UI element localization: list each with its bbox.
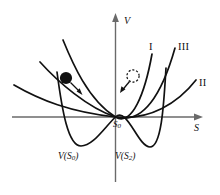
diagram-canvas: [0, 0, 220, 195]
curve-ii-path: [14, 80, 196, 117]
filled-particle-ball: [60, 72, 72, 84]
origin-label-sub: 0: [118, 122, 122, 130]
right-well-label: V(S2): [115, 152, 135, 162]
curve-iii-path: [40, 48, 175, 118]
x-axis-label: S: [194, 123, 199, 133]
left-well-label-base: V(S: [58, 151, 72, 161]
y-axis-label: V: [124, 16, 130, 26]
curve-i-label: I: [149, 42, 153, 53]
right-well-label-close: ): [132, 151, 135, 161]
potential-energy-diagram: V S S0 I III II V(S0) V(S2): [0, 0, 220, 195]
double-well-path: [57, 68, 166, 147]
left-well-label-close: ): [75, 151, 78, 161]
right-well-label-base: V(S: [115, 151, 129, 161]
curve-ii-label: II: [199, 78, 206, 89]
origin-label: S0: [113, 120, 121, 130]
curve-iii-label: III: [178, 42, 189, 53]
dashed-particle-ball: [127, 70, 139, 82]
x-axis-arrowhead: [194, 114, 203, 121]
y-axis-arrowhead: [112, 13, 119, 22]
left-well-label: V(S0): [58, 152, 78, 162]
curve-i-path: [63, 40, 152, 119]
